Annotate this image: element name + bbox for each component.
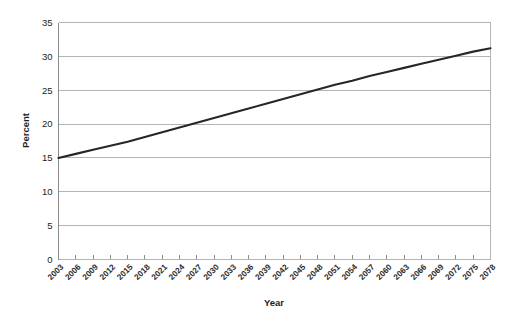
- x-tick-label: 2012: [98, 262, 118, 282]
- x-tick-label: 2024: [167, 262, 187, 282]
- y-tick-label: 5: [47, 220, 52, 231]
- x-tick-label: 2066: [409, 262, 429, 282]
- x-tick-label: 2039: [254, 262, 274, 282]
- x-tick-label: 2009: [81, 262, 101, 282]
- x-tick-label: 2048: [305, 262, 325, 282]
- plot-frame: [59, 23, 491, 260]
- y-tick-labels: 05101520253035: [42, 17, 53, 265]
- y-tick-label: 20: [42, 118, 53, 129]
- x-tick-label: 2018: [133, 262, 153, 282]
- x-tick-label: 2030: [202, 262, 222, 282]
- x-tick-label: 2006: [63, 262, 83, 282]
- gridlines: [59, 23, 491, 260]
- y-tick-label: 35: [42, 17, 53, 28]
- y-tick-label: 25: [42, 85, 53, 96]
- x-tick-label: 2015: [115, 262, 135, 282]
- x-tick-label: 2021: [150, 262, 170, 282]
- x-tick-label: 2051: [323, 262, 343, 282]
- x-tick-label: 2054: [340, 262, 360, 282]
- x-tick-label: 2075: [461, 262, 481, 282]
- x-tick-label: 2045: [288, 262, 308, 282]
- data-line-percent: [59, 48, 491, 158]
- x-tick-label: 2033: [219, 262, 239, 282]
- x-tick-label: 2003: [46, 262, 66, 282]
- x-tick-label: 2027: [184, 262, 204, 282]
- x-tick-label: 2072: [444, 262, 464, 282]
- chart-container: Percent 05101520253035 20032006200920122…: [0, 0, 514, 321]
- x-tick-label: 2042: [271, 262, 291, 282]
- y-tick-label: 10: [42, 186, 53, 197]
- x-tick-labels: 2003200620092012201520182021202420272030…: [46, 262, 498, 282]
- x-tick-label: 2060: [374, 262, 394, 282]
- x-axis-title: Year: [0, 297, 514, 308]
- y-tick-label: 30: [42, 51, 53, 62]
- x-tick-label: 2078: [478, 262, 498, 282]
- x-tick-label: 2069: [426, 262, 446, 282]
- line-chart-plot: 05101520253035 2003200620092012201520182…: [0, 0, 514, 321]
- x-tick-label: 2063: [392, 262, 412, 282]
- y-tick-label: 0: [47, 254, 52, 265]
- x-tick-label: 2057: [357, 262, 377, 282]
- x-tick-label: 2036: [236, 262, 256, 282]
- x-tickmarks: [59, 255, 491, 260]
- y-tick-label: 15: [42, 152, 53, 163]
- data-series: [59, 48, 491, 158]
